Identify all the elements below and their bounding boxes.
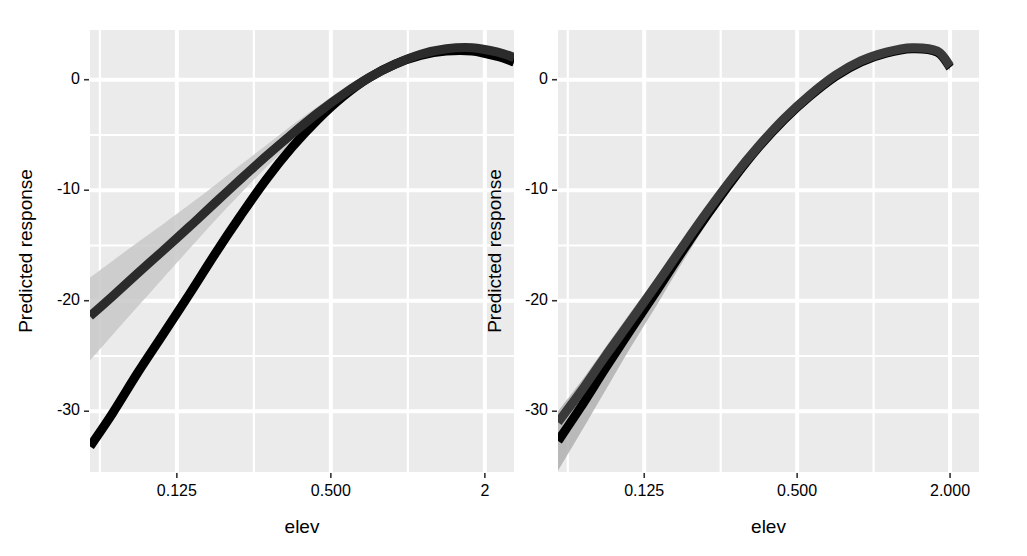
x-tick-label: 0.125 xyxy=(127,482,227,500)
y-tick-label: -10 xyxy=(57,180,80,198)
x-tick-label: 0.125 xyxy=(594,482,694,500)
x-axis-title-left: elev xyxy=(90,516,514,538)
y-tick-label: -20 xyxy=(525,291,548,309)
x-tick-label: 2.000 xyxy=(900,482,1000,500)
chart-panel-right: Predicted response 0 -10 -20 -30 0.125 0… xyxy=(513,0,1027,556)
x-tick-label: 0.500 xyxy=(281,482,381,500)
x-axis-title-right: elev xyxy=(558,516,979,538)
plot-area-right xyxy=(513,0,1027,556)
figure-canvas: Predicted response 0 -10 -20 -30 0.125 0… xyxy=(0,0,1027,556)
panel-background xyxy=(558,30,979,472)
y-tick-label: 0 xyxy=(539,70,548,88)
y-tick-label: -10 xyxy=(525,180,548,198)
y-tick-label: 0 xyxy=(71,70,80,88)
y-tick-label: -20 xyxy=(57,291,80,309)
y-tick-label: -30 xyxy=(57,401,80,419)
chart-panel-left: Predicted response 0 -10 -20 -30 0.125 0… xyxy=(0,0,514,556)
y-tick-label: -30 xyxy=(525,401,548,419)
x-tick-label: 0.500 xyxy=(747,482,847,500)
y-axis-title-left: Predicted response xyxy=(15,169,37,333)
y-axis-title-right: Predicted response xyxy=(484,169,506,333)
